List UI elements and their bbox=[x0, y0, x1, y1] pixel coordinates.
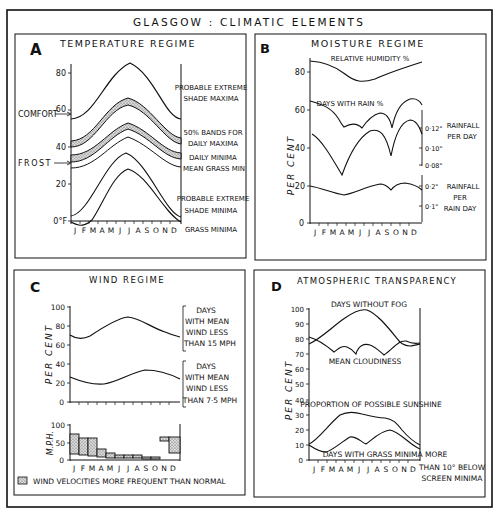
series-label: DAILY MAXIMA bbox=[188, 140, 238, 148]
series-label: RELATIVE HUMIDITY % bbox=[331, 55, 410, 63]
month-label: F bbox=[321, 465, 325, 474]
month-label: D bbox=[170, 464, 176, 473]
y-tick-label: 20 bbox=[55, 379, 65, 388]
y-tick-label: 80 bbox=[295, 68, 305, 77]
series-label: SHADE MINIMA bbox=[185, 207, 238, 215]
month-label: J bbox=[127, 226, 130, 235]
y-axis-label: PER CENT bbox=[44, 324, 54, 384]
series-label: WIND LESS bbox=[186, 384, 228, 393]
month-label: J bbox=[367, 228, 370, 237]
month-label: N bbox=[162, 226, 168, 235]
y-tick-label: 40 bbox=[295, 144, 305, 153]
y-tick-label: 20 bbox=[295, 427, 304, 435]
y-tick-label: 0 bbox=[299, 219, 304, 228]
y-tick-label: 20 bbox=[56, 180, 66, 189]
wind-velocity-bars bbox=[70, 434, 180, 459]
y-tick-label: 30 bbox=[295, 412, 304, 420]
month-label: J bbox=[357, 465, 360, 474]
month-label: A bbox=[339, 228, 345, 237]
month-label: N bbox=[402, 228, 408, 237]
mph-tick-label: 50 bbox=[55, 439, 65, 448]
series-label: DAYS WITH GRASS MINIMA MORE bbox=[323, 450, 448, 459]
panel-title: WIND REGIME bbox=[89, 275, 165, 285]
month-label: M bbox=[107, 464, 113, 473]
panel-letter: A bbox=[30, 41, 42, 59]
right-tick-label: 0·2" bbox=[425, 183, 438, 191]
month-label: J bbox=[118, 226, 121, 235]
series-label: DAILY MINIMA bbox=[189, 154, 237, 162]
rainfall-per-day-curve bbox=[312, 120, 422, 175]
right-tick-label: 0·12" bbox=[425, 125, 442, 133]
series-label: THAN 15 MPH bbox=[183, 339, 236, 348]
y-axis-label: PER CENT bbox=[286, 135, 296, 195]
panel-letter: D bbox=[271, 279, 282, 294]
series-label: THAN 10° BELOW bbox=[418, 463, 486, 472]
series-label: RAIN DAY bbox=[444, 205, 477, 213]
panel-atmospheric-transparency: D ATMOSPHERIC TRANSPARENCY 0 10 20 30 40… bbox=[254, 270, 486, 497]
month-label: M bbox=[329, 465, 335, 474]
month-label: A bbox=[135, 226, 141, 235]
month-label: A bbox=[99, 226, 105, 235]
grass-minima-curve bbox=[309, 430, 420, 452]
series-label: DAYS WITHOUT FOG bbox=[331, 300, 407, 309]
y-tick-label: 50 bbox=[295, 381, 304, 389]
climatic-elements-figure: GLASGOW : CLIMATIC ELEMENTS A TEMPERATUR… bbox=[0, 0, 498, 515]
series-label: MEAN CLOUDINESS bbox=[329, 357, 402, 366]
month-label: J bbox=[366, 465, 369, 474]
panel-wind-regime: C WIND REGIME 0 20 40 60 80 100 PER CENT bbox=[14, 270, 245, 495]
month-label: J bbox=[117, 464, 120, 473]
month-label: J bbox=[72, 464, 75, 473]
y-tick-label: 70 bbox=[295, 351, 304, 359]
month-label: J bbox=[358, 228, 361, 237]
month-label: M bbox=[348, 228, 354, 237]
y-tick-label: 100 bbox=[291, 306, 304, 314]
series-label: WIND LESS bbox=[186, 328, 228, 337]
right-tick-label: 0·10" bbox=[425, 145, 442, 153]
rainfall-per-rain-day-curve bbox=[310, 183, 422, 195]
panel-title: MOISTURE REGIME bbox=[311, 38, 425, 49]
y-tick-label: 60 bbox=[55, 341, 65, 350]
month-label: M bbox=[347, 465, 353, 474]
series-label: RAINFALL bbox=[447, 183, 480, 191]
month-label: A bbox=[98, 464, 104, 473]
month-label: O bbox=[153, 226, 159, 235]
y-tick-label: 40 bbox=[56, 143, 66, 152]
month-label: O bbox=[152, 464, 158, 473]
series-label: 50% BANDS FOR bbox=[183, 129, 242, 137]
comfort-label: COMFORT bbox=[18, 110, 58, 119]
month-label: F bbox=[82, 226, 86, 235]
month-label: N bbox=[401, 465, 407, 474]
y-tick-label: 80 bbox=[56, 69, 66, 78]
y-tick-label: 60 bbox=[295, 106, 305, 115]
series-label: DAYS bbox=[196, 362, 216, 371]
y-tick-label: 60 bbox=[295, 366, 304, 374]
legend-label: WIND VELOCITIES MORE FREQUENT THAN NORMA… bbox=[33, 477, 227, 486]
month-label: A bbox=[374, 465, 380, 474]
y-tick-label: 0 bbox=[59, 398, 64, 407]
y-tick-label: 100 bbox=[51, 303, 66, 312]
month-label: N bbox=[161, 464, 167, 473]
month-label: F bbox=[81, 464, 85, 473]
month-label: S bbox=[385, 228, 390, 237]
month-label: A bbox=[338, 465, 344, 474]
wind-less-15mph-curve bbox=[70, 317, 180, 339]
legend-swatch-icon bbox=[18, 477, 27, 484]
series-label: PER DAY bbox=[447, 133, 477, 141]
panel-moisture-regime: B MOISTURE REGIME 0 20 40 60 80 PER CENT bbox=[255, 34, 486, 260]
y-tick-label: 20 bbox=[295, 182, 305, 191]
y-tick-label: 80 bbox=[55, 322, 65, 331]
series-label: RAINFALL bbox=[447, 122, 480, 130]
series-label: SCREEN MINIMA bbox=[422, 474, 484, 483]
series-label: DAYS bbox=[196, 306, 216, 315]
y-tick-label: 0 bbox=[299, 457, 303, 465]
month-label: O bbox=[392, 465, 398, 474]
month-label: D bbox=[410, 465, 416, 474]
month-label: D bbox=[171, 226, 177, 235]
panel-title: TEMPERATURE REGIME bbox=[59, 38, 196, 49]
y-tick-label: 90 bbox=[295, 321, 304, 329]
series-label: MEAN GRASS MIN bbox=[183, 165, 245, 173]
y-tick-label: 40 bbox=[55, 360, 65, 369]
right-tick-label: 0·08" bbox=[425, 162, 442, 170]
month-label: A bbox=[375, 228, 381, 237]
series-label: PROBABLE EXTREME bbox=[175, 84, 248, 92]
